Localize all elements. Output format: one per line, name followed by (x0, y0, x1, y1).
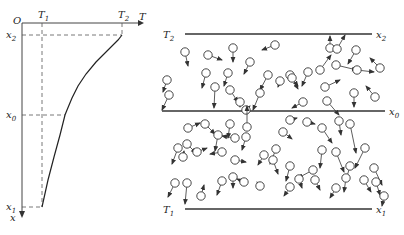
molecule-circle-icon (350, 89, 358, 97)
molecule (202, 69, 210, 88)
molecule (201, 120, 215, 134)
molecule-circle-icon (256, 182, 264, 190)
molecule (260, 71, 272, 90)
velocity-arrow-icon (330, 104, 339, 115)
molecule-circle-icon (165, 91, 173, 99)
molecule (295, 175, 303, 188)
molecule-circle-icon (304, 68, 312, 76)
bottom-plate-temp-label: T1 (163, 204, 174, 218)
velocity-arrow-icon (168, 187, 173, 197)
x-tick-labels: x2x0x1 (6, 29, 17, 215)
molecule (222, 134, 239, 142)
molecule-circle-icon (242, 133, 250, 141)
velocity-arrow-icon (217, 185, 221, 195)
molecule (360, 176, 371, 192)
temperature-curve (42, 35, 122, 207)
molecule (210, 148, 226, 156)
molecule-circle-icon (360, 176, 368, 184)
molecule-circle-icon (295, 175, 303, 183)
molecule-circle-icon (184, 124, 192, 132)
velocity-arrow-icon (370, 58, 377, 65)
molecule (333, 35, 345, 53)
molecule (236, 98, 244, 107)
velocity-arrow-icon (292, 104, 299, 108)
molecule-circle-icon (371, 93, 379, 101)
molecule-circle-icon (242, 106, 250, 114)
molecule (217, 177, 226, 195)
velocity-arrow-icon (324, 131, 332, 143)
velocity-arrow-icon (344, 182, 345, 192)
molecule-circle-icon (163, 76, 171, 84)
molecule-circle-icon (332, 184, 340, 192)
molecule-circle-icon (346, 162, 354, 170)
molecule-circle-icon (240, 178, 248, 186)
molecule-circle-icon (380, 192, 388, 200)
molecule (348, 46, 360, 64)
molecule-circle-icon (309, 166, 317, 174)
molecule (323, 97, 339, 115)
molecule-circle-icon (197, 192, 205, 200)
molecule-circle-icon (202, 69, 210, 77)
velocity-arrow-icon (214, 91, 215, 108)
top-plate-temp-label: T2 (163, 29, 175, 43)
velocity-arrow-icon (172, 152, 177, 164)
molecule-circle-icon (211, 83, 219, 91)
molecule-circle-icon (236, 98, 244, 106)
molecule (350, 89, 358, 107)
velocity-arrow-icon (185, 187, 187, 204)
molecule-circle-icon (171, 179, 179, 187)
velocity-arrow-icon (262, 47, 271, 50)
velocity-arrow-icon (260, 79, 266, 90)
velocity-arrow-icon (366, 184, 371, 192)
temperature-profile-graph: O T x T1T2 x2x0x1 (6, 9, 147, 223)
plates: T2x2x0T1x1 (162, 29, 400, 218)
velocity-arrow-icon (202, 185, 204, 192)
molecule (242, 133, 250, 150)
molecule (181, 48, 189, 66)
molecule (256, 182, 264, 190)
x-tick-label-x2: x2 (6, 29, 17, 43)
velocity-arrow-icon (163, 84, 166, 92)
molecule (342, 174, 350, 192)
velocity-arrow-icon (162, 99, 167, 110)
velocity-arrow-icon (210, 153, 218, 154)
velocity-arrow-icon (242, 141, 245, 150)
velocity-arrow-icon (300, 183, 302, 188)
velocity-arrow-icon (274, 164, 278, 174)
velocity-arrow-icon (212, 56, 222, 60)
molecule-circle-icon (183, 140, 191, 148)
velocity-arrow-icon (348, 54, 354, 64)
molecule (303, 118, 315, 126)
molecule (311, 176, 320, 190)
molecule-circle-icon (226, 120, 234, 128)
molecule-circle-icon (332, 61, 340, 69)
molecule-circle-icon (335, 117, 343, 125)
velocity-arrow-icon (351, 128, 356, 153)
heat-conduction-diagram: O T x T1T2 x2x0x1 T2x2x0T1x1 (0, 0, 404, 235)
velocity-arrow-icon (340, 125, 341, 135)
molecule-circle-icon (276, 77, 284, 85)
velocity-arrow-icon (377, 186, 380, 195)
molecule-circle-icon (224, 69, 232, 77)
molecule (211, 83, 219, 108)
molecule-circle-icon (318, 124, 326, 132)
molecule-circle-icon (204, 51, 212, 59)
velocity-arrow-icon (322, 55, 331, 67)
velocity-arrow-icon (228, 128, 229, 138)
velocity-arrow-icon (338, 156, 344, 172)
origin-label: O (13, 15, 21, 26)
velocity-arrow-icon (284, 190, 288, 196)
velocity-arrow-icon (244, 66, 248, 74)
molecule-circle-icon (179, 153, 187, 161)
molecule (286, 116, 297, 124)
molecule-circle-icon (299, 98, 307, 106)
molecule-circle-icon (264, 71, 272, 79)
velocity-arrow-icon (215, 139, 217, 151)
velocity-arrow-icon (329, 80, 340, 85)
molecule-circle-icon (372, 178, 380, 186)
molecule (286, 162, 294, 181)
x-tick-label-x0: x0 (6, 109, 17, 123)
molecule-circle-icon (353, 66, 361, 74)
molecule-circle-icon (226, 86, 234, 94)
velocity-arrow-icon (339, 35, 345, 45)
